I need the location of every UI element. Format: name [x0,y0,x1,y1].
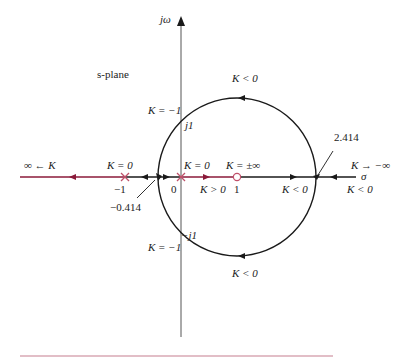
circle-top-arrow-icon [238,95,245,101]
tick-minus1-label: −1 [114,183,126,195]
k-gt0-label: K > 0 [199,183,226,195]
circle-bottom-arrow-icon [238,253,245,259]
real-axis-label: σ [361,170,367,182]
k-pm-inf-label: K = ±∞ [225,159,260,171]
inf-minus-k-label: ∞ ← K [24,159,56,171]
k0-left-label: K = 0 [106,159,133,171]
axis-arrow-icon [177,16,185,26]
minus-j1-label: −j1 [181,229,197,241]
k-lt0-axis-mid-label: K < 0 [281,183,308,195]
arrow-icon [290,174,297,180]
breakaway-right-label: 2.414 [334,131,359,143]
k-lt0-axis-right-label: K < 0 [346,183,373,195]
right-arrow-icon [203,174,210,180]
tick-1-label: 1 [234,183,240,195]
imag-axis-label: jω [158,13,171,25]
breakaway-right-pointer [318,151,333,175]
k-lt0-top-label: K < 0 [231,72,258,84]
tick-0-label: 0 [171,183,177,195]
left-arrow-icon [69,174,76,180]
arrow-icon [163,174,170,180]
k-to-minus-inf-label: K → −∞ [350,159,390,171]
plane-label: s-plane [97,68,129,80]
arrow-icon [330,174,337,180]
k-lt0-bottom-label: K < 0 [231,267,258,279]
j1-label: j1 [183,119,194,131]
root-locus-diagram: jω σ s-plane ∞ ← K K = 0 K = 0 K = ±∞ K … [0,0,412,358]
breakaway-left-pointer [137,180,155,198]
k0-origin-label: K = 0 [183,159,210,171]
zero-marker [233,173,240,180]
k-minus1-bottom-label: K = −1 [147,241,181,253]
breakaway-left-label: −0.414 [110,201,141,213]
k-minus1-top-label: K = −1 [147,104,181,116]
arrow-icon [141,174,148,180]
